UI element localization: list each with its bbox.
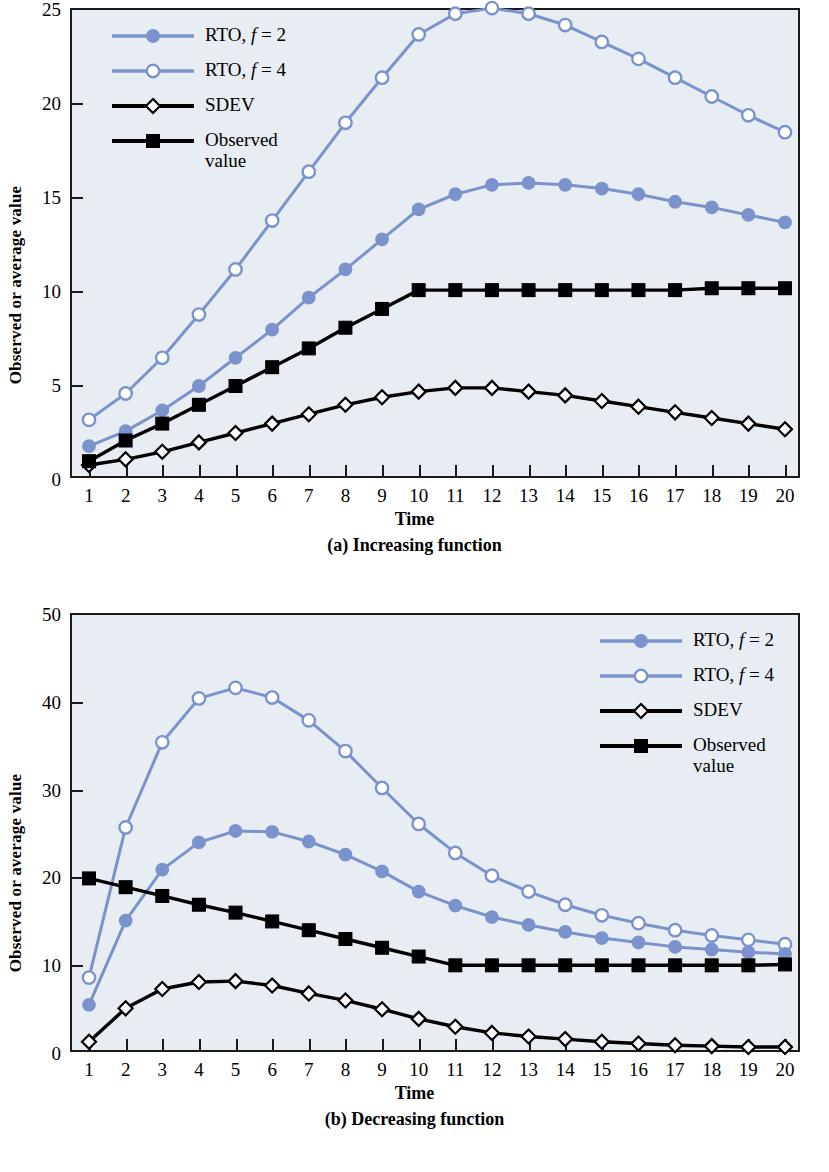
y-tick-label: 15 (42, 187, 72, 209)
marker-filled-square (595, 959, 608, 972)
marker-open-diamond (338, 398, 352, 412)
x-tick-label: 12 (482, 485, 501, 507)
marker-filled-square (742, 282, 755, 295)
marker-open-diamond (558, 1032, 572, 1046)
marker-filled-circle (706, 943, 718, 955)
y-axis-label-b: Observed or average value (6, 774, 26, 973)
x-axis-label-a: Time (0, 509, 829, 530)
marker-open-diamond (192, 975, 206, 989)
marker-open-circle (376, 71, 388, 83)
x-tick-label: 20 (776, 1059, 795, 1081)
series-observed-value (83, 282, 792, 468)
marker-open-circle (412, 28, 424, 40)
marker-open-diamond (634, 704, 648, 718)
legend-item-observed-value[interactable]: Observed value (110, 129, 286, 171)
x-tick-label: 13 (519, 1059, 538, 1081)
x-tick-label: 1 (84, 1059, 94, 1081)
marker-open-diamond (595, 1035, 609, 1049)
marker-open-circle (486, 870, 498, 882)
marker-open-diamond (302, 407, 316, 421)
marker-open-diamond (741, 417, 755, 431)
y-axis-label-a-wrap: Observed or average value (14, 0, 40, 570)
marker-filled-square (486, 284, 499, 297)
y-tick-label: 20 (42, 93, 72, 115)
x-tick-label: 20 (776, 485, 795, 507)
marker-open-circle (559, 899, 571, 911)
marker-filled-square (595, 284, 608, 297)
marker-open-diamond (155, 982, 169, 996)
marker-open-circle (376, 782, 388, 794)
marker-open-diamond (119, 452, 133, 466)
legend-key-rto-f4 (598, 664, 684, 688)
marker-open-circle (119, 387, 131, 399)
caption-a: (a) Increasing function (0, 535, 829, 556)
marker-filled-circle (303, 835, 315, 847)
legend-item-sdev[interactable]: SDEV (598, 699, 774, 723)
marker-filled-circle (412, 203, 424, 215)
marker-open-diamond (448, 381, 462, 395)
marker-open-circle (486, 2, 498, 14)
marker-filled-circle (779, 216, 791, 228)
marker-open-circle (83, 414, 95, 426)
y-tick-label: 25 (42, 0, 72, 21)
x-tick-label: 14 (556, 485, 575, 507)
y-tick-label: 30 (42, 780, 72, 802)
marker-open-circle (632, 53, 644, 65)
x-tick-label: 9 (377, 1059, 387, 1081)
series-sdev (82, 974, 792, 1054)
series-line (89, 981, 785, 1047)
marker-open-circle (522, 8, 534, 20)
marker-open-diamond (705, 1039, 719, 1053)
marker-filled-circle (193, 380, 205, 392)
marker-filled-square (376, 941, 389, 954)
marker-filled-square (229, 906, 242, 919)
x-tick-label: 2 (121, 485, 131, 507)
legend-item-rto-f2[interactable]: RTO, f = 2 (598, 629, 774, 653)
x-tick-label: 1 (84, 485, 94, 507)
marker-filled-circle (706, 201, 718, 213)
legend-item-observed-value[interactable]: Observed value (598, 734, 774, 776)
marker-open-circle (632, 917, 644, 929)
marker-filled-circle (266, 826, 278, 838)
x-tick-label: 15 (592, 485, 611, 507)
legend-label-sdev: SDEV (693, 699, 743, 721)
series-line (89, 831, 785, 1005)
legend-item-rto-f4[interactable]: RTO, f = 4 (110, 59, 286, 83)
legend-key-observed-value (598, 734, 684, 758)
x-tick-label: 8 (341, 485, 351, 507)
marker-open-circle (742, 934, 754, 946)
x-tick-label: 16 (629, 1059, 648, 1081)
marker-filled-square (229, 380, 242, 393)
marker-filled-square (119, 881, 132, 894)
marker-filled-square (302, 924, 315, 937)
marker-open-diamond (741, 1040, 755, 1054)
marker-open-circle (156, 736, 168, 748)
legend-key-sdev (598, 699, 684, 723)
chart-panel-b: Observed or average value 01020304050 12… (0, 574, 829, 1172)
marker-filled-square (192, 398, 205, 411)
marker-open-diamond (155, 445, 169, 459)
y-tick-label: 20 (42, 867, 72, 889)
legend-item-rto-f2[interactable]: RTO, f = 2 (110, 24, 286, 48)
marker-open-circle (522, 885, 534, 897)
marker-open-circle (119, 821, 131, 833)
marker-open-diamond (229, 974, 243, 988)
marker-filled-circle (559, 179, 571, 191)
plot-area-a: 0510152025 12345678910111213141516171819… (70, 8, 800, 478)
legend-item-sdev[interactable]: SDEV (110, 94, 286, 118)
marker-open-circle (449, 847, 461, 859)
marker-filled-circle (229, 352, 241, 364)
legend-key-rto-f2 (110, 24, 196, 48)
x-tick-label: 6 (267, 485, 277, 507)
marker-open-diamond (375, 390, 389, 404)
x-tick-label: 17 (666, 1059, 685, 1081)
marker-open-circle (559, 19, 571, 31)
marker-open-circle (83, 971, 95, 983)
marker-filled-circle (522, 177, 534, 189)
legend-item-rto-f4[interactable]: RTO, f = 4 (598, 664, 774, 688)
marker-open-diamond (265, 417, 279, 431)
x-tick-label: 13 (519, 485, 538, 507)
marker-filled-circle (596, 182, 608, 194)
marker-filled-square (779, 282, 792, 295)
marker-open-diamond (705, 411, 719, 425)
